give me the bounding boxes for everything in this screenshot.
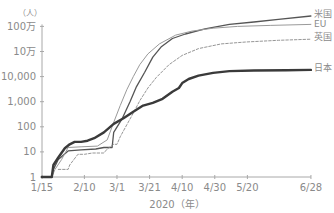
x-tick-label: 3/1 [109,182,125,193]
y-tick-label: 10,000 [1,71,36,82]
x-tick-label: 2/10 [73,182,95,193]
chart-series [42,16,311,177]
line-chart: 1101001,00010,00010万100万1/152/103/13/214… [0,0,334,213]
y-tick-label: 10 [23,146,36,157]
x-tick-label: 4/30 [204,182,226,193]
y-tick-label: 1 [30,172,36,183]
series-label: EU [314,19,326,29]
series-label: 米国 [314,8,332,19]
x-tick-label: 5/20 [236,182,258,193]
y-axis-unit: （人） [18,9,42,18]
y-tick-label: 1,000 [7,96,36,107]
x-tick-label: 4/10 [171,182,193,193]
y-tick-label: 100万 [7,21,36,32]
x-tick-label: 1/15 [31,182,53,193]
series-line-日本 [42,70,311,177]
series-line-英国 [58,39,311,169]
series-line-米国 [42,16,311,177]
x-tick-label: 3/21 [138,182,160,193]
y-tick-label: 10万 [13,46,36,57]
series-label: 英国 [314,31,332,42]
x-tick-label: 6/28 [300,182,322,193]
x-axis-title: 2020（年） [149,198,204,210]
y-tick-label: 100 [17,121,36,132]
series-labels: 米国EU英国日本 [314,8,332,73]
series-label: 日本 [314,62,332,73]
